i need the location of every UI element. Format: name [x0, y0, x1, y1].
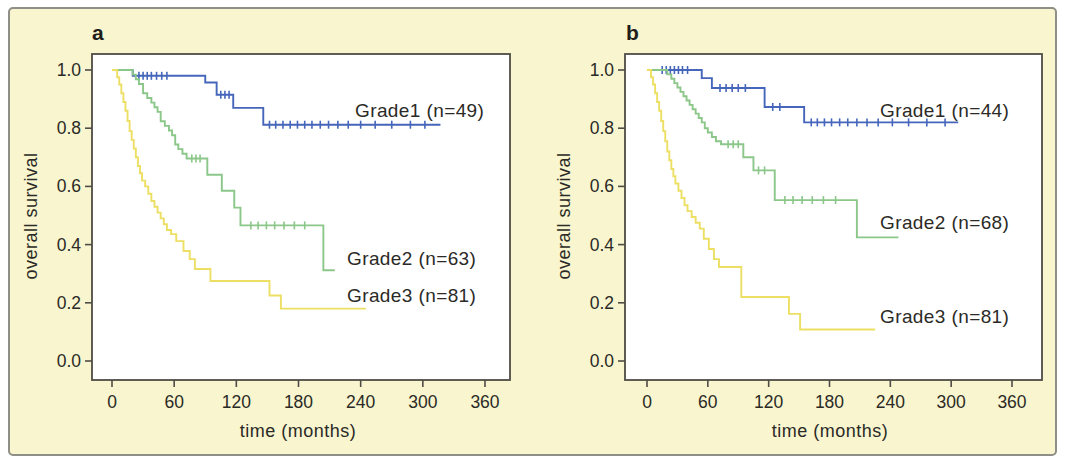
y-tick-label: 0.6	[590, 176, 614, 196]
y-tick-label: 0.8	[590, 118, 614, 138]
x-tick-label: 180	[284, 392, 313, 412]
x-tick-label: 0	[107, 392, 117, 412]
panel-b-grade3-label: Grade3 (n=81)	[880, 306, 1009, 328]
y-tick-label: 0.0	[590, 351, 615, 371]
y-tick-label: 0.0	[57, 351, 82, 371]
y-tick-label: 0.2	[590, 293, 614, 313]
panel-a-y-axis-title: overall survival	[21, 152, 42, 279]
panel-a-grade2-label: Grade2 (n=63)	[347, 248, 476, 270]
panel-a-letter: a	[92, 21, 104, 45]
panel-b-x-axis-title: time (months)	[772, 421, 889, 442]
panel-a-grade3-label: Grade3 (n=81)	[347, 285, 476, 307]
y-tick-label: 0.6	[57, 176, 81, 196]
x-tick-label: 0	[642, 392, 652, 412]
x-tick-label: 300	[937, 392, 966, 412]
x-tick-label: 60	[698, 392, 718, 412]
panel-b-grade2-label: Grade2 (n=68)	[880, 212, 1009, 234]
y-tick-label: 1.0	[590, 60, 615, 80]
panel-a-x-axis-title: time (months)	[240, 421, 357, 442]
y-tick-label: 0.4	[590, 235, 615, 255]
x-tick-label: 240	[346, 392, 375, 412]
panel-b-letter: b	[626, 21, 639, 45]
x-tick-label: 60	[164, 392, 184, 412]
x-tick-label: 240	[876, 392, 905, 412]
survival-charts-svg: 0601201802403003601.00.80.60.40.20.00601…	[0, 0, 1065, 468]
panel-b-grade1-label: Grade1 (n=44)	[880, 100, 1009, 122]
x-tick-label: 360	[997, 392, 1026, 412]
x-tick-label: 180	[815, 392, 844, 412]
x-tick-label: 120	[754, 392, 783, 412]
y-tick-label: 0.8	[57, 118, 81, 138]
x-tick-label: 120	[222, 392, 251, 412]
y-tick-label: 0.2	[57, 293, 81, 313]
panel-b-y-axis-title: overall survival	[554, 152, 575, 279]
panel-a-grade1-label: Grade1 (n=49)	[355, 100, 484, 122]
y-tick-label: 0.4	[57, 235, 82, 255]
y-tick-label: 1.0	[57, 60, 82, 80]
x-tick-label: 300	[408, 392, 437, 412]
x-tick-label: 360	[470, 392, 499, 412]
